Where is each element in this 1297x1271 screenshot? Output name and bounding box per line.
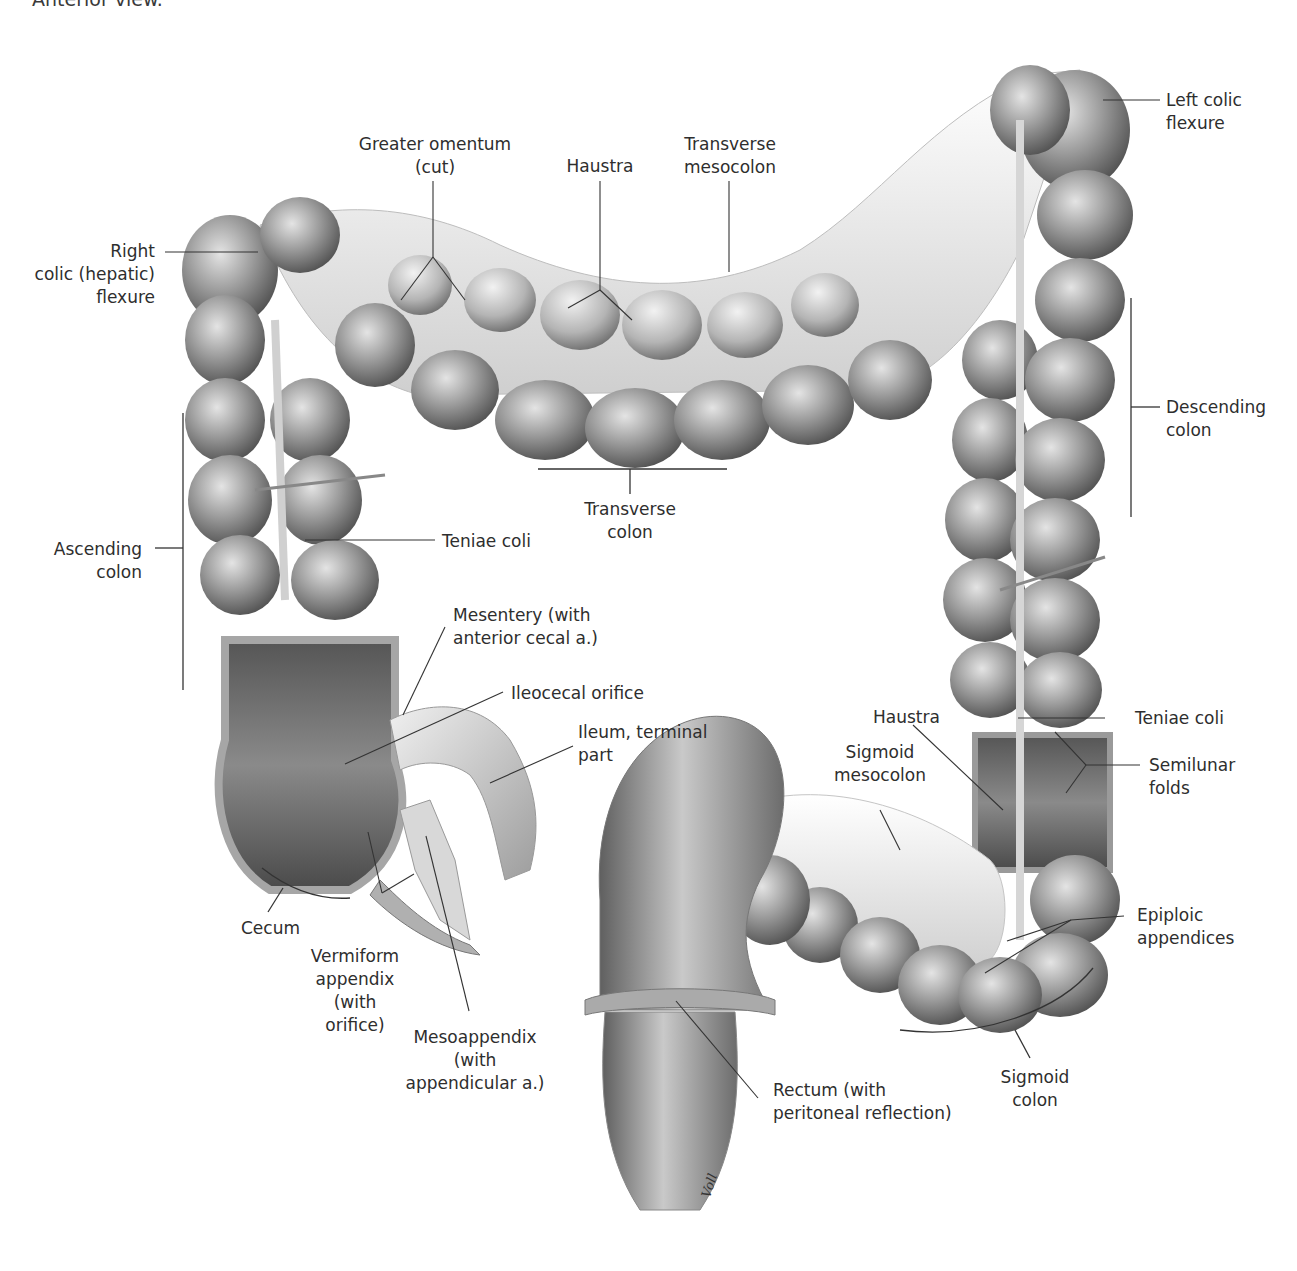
label-mesoappendix: Mesoappendix (with appendicular a.) <box>400 1026 550 1095</box>
large-intestine-illustration <box>0 0 1297 1271</box>
label-ileum-terminal-part: Ileum, terminal part <box>578 721 728 767</box>
label-haustra-right: Haustra <box>873 706 963 729</box>
label-left-colic-flexure: Left colic flexure <box>1166 89 1286 135</box>
label-vermiform-appendix: Vermiform appendix (with orifice) <box>300 945 410 1037</box>
label-sigmoid-mesocolon: Sigmoid mesocolon <box>825 741 935 787</box>
label-teniae-coli-right: Teniae coli <box>1135 707 1245 730</box>
label-greater-omentum: Greater omentum (cut) <box>350 133 520 179</box>
label-right-colic-flexure: Right colic (hepatic) flexure <box>30 240 155 309</box>
label-semilunar-folds: Semilunar folds <box>1149 754 1259 800</box>
label-cecum: Cecum <box>241 917 321 940</box>
label-haustra-top: Haustra <box>545 155 655 178</box>
label-rectum: Rectum (with peritoneal reflection) <box>773 1079 973 1125</box>
label-descending-colon: Descending colon <box>1166 396 1291 442</box>
label-epiploic-appendices: Epiploic appendices <box>1137 904 1257 950</box>
label-ileocecal-orifice: Ileocecal orifice <box>511 682 661 705</box>
label-teniae-coli-left: Teniae coli <box>442 530 562 553</box>
label-sigmoid-colon: Sigmoid colon <box>985 1066 1085 1112</box>
label-ascending-colon: Ascending colon <box>20 538 142 584</box>
leader-mesentery <box>403 627 445 715</box>
label-transverse-colon: Transverse colon <box>575 498 685 544</box>
label-mesentery: Mesentery (with anterior cecal a.) <box>453 604 633 650</box>
label-transverse-mesocolon: Transverse mesocolon <box>670 133 790 179</box>
